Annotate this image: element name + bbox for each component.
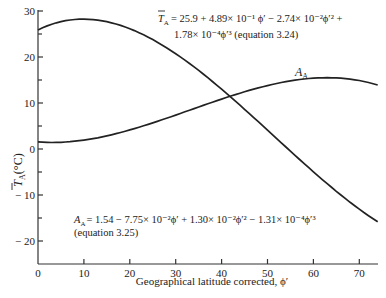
x-tick-label: 10 <box>78 267 90 279</box>
x-tick-label: 60 <box>308 267 320 279</box>
x-tick-label: 0 <box>35 267 41 279</box>
y-tick-label: 0 <box>30 143 36 155</box>
y-axis-label: TA(°C) <box>11 153 27 190</box>
x-axis-label: Geographical latitude corrected, ϕ′ <box>136 275 288 287</box>
equation-3-24-line1: TA= 25.9 + 4.89× 10⁻¹ ϕ′ − 2.74× 10⁻²ϕ′²… <box>158 13 342 27</box>
equation-3-25-line1: AA= 1.54 − 7.75× 10⁻²ϕ′ + 1.30× 10⁻²ϕ′² … <box>73 214 316 228</box>
curve-amplitude <box>38 78 378 143</box>
y-ticks: 3020100− 10− 20 <box>15 5 43 247</box>
x-tick-label: 70 <box>354 267 366 279</box>
equation-3-25-line2: (equation 3.25) <box>74 227 139 239</box>
y-tick-label: 20 <box>24 51 36 63</box>
x-tick-label: 20 <box>124 267 136 279</box>
y-tick-label: 10 <box>24 97 36 109</box>
curve-mean-temperature <box>38 19 378 222</box>
svg-text:TA(°C): TA(°C) <box>11 153 27 186</box>
y-tick-label: − 20 <box>15 235 35 247</box>
chart: 3020100− 10− 20 010203040506070 AA TA= 2… <box>0 0 386 298</box>
equation-3-24-line2: 1.78× 10⁻⁴ϕ′³ (equation 3.24) <box>174 29 299 41</box>
y-tick-label: 30 <box>24 5 36 17</box>
y-tick-label: − 10 <box>15 189 35 201</box>
curve-label-amplitude: AA <box>294 65 308 81</box>
